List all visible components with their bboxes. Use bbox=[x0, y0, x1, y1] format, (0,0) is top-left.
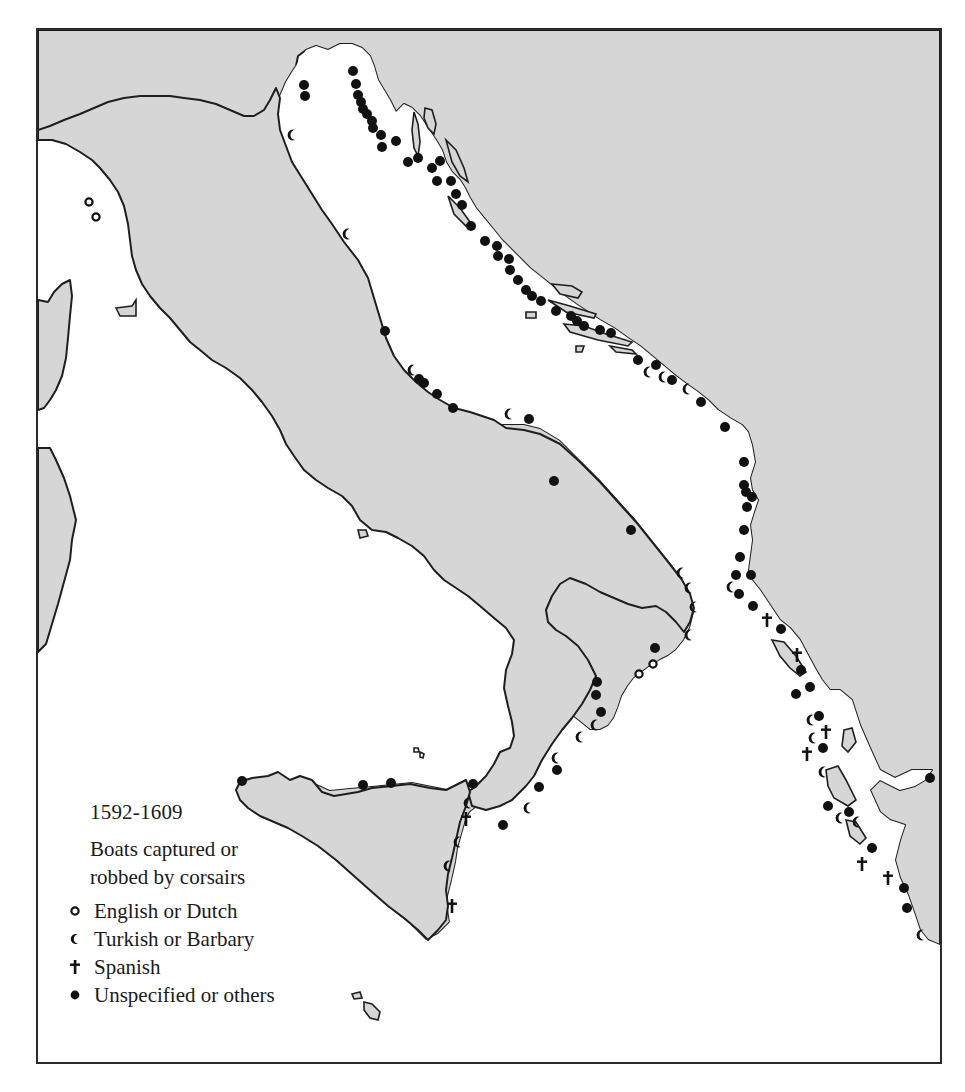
marker-unspecified bbox=[626, 525, 636, 535]
legend-item-turkish-barbary: Turkish or Barbary bbox=[60, 925, 320, 953]
marker-unspecified bbox=[748, 601, 758, 611]
marker-unspecified bbox=[348, 66, 358, 76]
legend-item-unspecified: Unspecified or others bbox=[60, 981, 320, 1009]
legend-label: Spanish bbox=[94, 955, 161, 980]
marker-unspecified bbox=[899, 883, 909, 893]
marker-unspecified bbox=[300, 91, 310, 101]
marker-unspecified bbox=[742, 502, 752, 512]
marker-unspecified bbox=[413, 153, 423, 163]
marker-english-dutch bbox=[635, 670, 642, 677]
marker-unspecified bbox=[551, 306, 561, 316]
island-aeolian-2 bbox=[420, 752, 424, 758]
marker-unspecified bbox=[505, 265, 515, 275]
marker-unspecified bbox=[667, 375, 677, 385]
open-circle-icon bbox=[60, 905, 90, 917]
marker-unspecified bbox=[534, 782, 544, 792]
cross-icon bbox=[60, 959, 90, 975]
legend: 1592-1609 Boats captured or robbed by co… bbox=[60, 800, 320, 1009]
marker-unspecified bbox=[448, 403, 458, 413]
marker-unspecified bbox=[735, 552, 745, 562]
marker-unspecified bbox=[386, 778, 396, 788]
marker-unspecified bbox=[791, 689, 801, 699]
marker-unspecified bbox=[457, 200, 467, 210]
marker-unspecified bbox=[549, 476, 559, 486]
marker-unspecified bbox=[720, 422, 730, 432]
legend-label: English or Dutch bbox=[94, 899, 237, 924]
legend-item-spanish: Spanish bbox=[60, 953, 320, 981]
marker-unspecified bbox=[493, 251, 503, 261]
marker-english-dutch bbox=[92, 213, 99, 220]
marker-english-dutch bbox=[649, 660, 656, 667]
marker-unspecified bbox=[446, 176, 456, 186]
marker-unspecified bbox=[805, 682, 815, 692]
marker-unspecified bbox=[776, 624, 786, 634]
marker-unspecified bbox=[299, 80, 309, 90]
marker-unspecified bbox=[818, 743, 828, 753]
marker-unspecified bbox=[391, 136, 401, 146]
marker-unspecified bbox=[731, 570, 741, 580]
island-gozo bbox=[352, 992, 362, 999]
crescent-icon bbox=[60, 932, 90, 946]
marker-unspecified bbox=[651, 360, 661, 370]
marker-unspecified bbox=[536, 296, 546, 306]
marker-unspecified bbox=[746, 570, 756, 580]
island-ischia bbox=[358, 530, 368, 538]
marker-unspecified bbox=[592, 677, 602, 687]
marker-unspecified bbox=[419, 378, 429, 388]
island-vis bbox=[526, 312, 536, 318]
marker-unspecified bbox=[498, 820, 508, 830]
marker-unspecified bbox=[747, 492, 757, 502]
marker-unspecified bbox=[823, 801, 833, 811]
island-aeolian-1 bbox=[414, 748, 419, 752]
marker-unspecified bbox=[237, 776, 247, 786]
marker-unspecified bbox=[451, 189, 461, 199]
legend-title: Boats captured or robbed by corsairs bbox=[90, 835, 320, 891]
island-lastovo bbox=[576, 346, 584, 352]
marker-unspecified bbox=[468, 779, 478, 789]
filled-circle-icon bbox=[60, 989, 90, 1001]
marker-unspecified bbox=[925, 773, 935, 783]
marker-english-dutch bbox=[85, 198, 92, 205]
marker-unspecified bbox=[527, 291, 537, 301]
marker-unspecified bbox=[432, 389, 442, 399]
marker-unspecified bbox=[796, 665, 806, 675]
marker-unspecified bbox=[368, 123, 378, 133]
marker-unspecified bbox=[591, 690, 601, 700]
marker-unspecified bbox=[513, 275, 523, 285]
marker-unspecified bbox=[579, 321, 589, 331]
marker-unspecified bbox=[524, 414, 534, 424]
marker-unspecified bbox=[480, 236, 490, 246]
marker-unspecified bbox=[376, 130, 386, 140]
marker-unspecified bbox=[427, 163, 437, 173]
marker-unspecified bbox=[492, 241, 502, 251]
marker-unspecified bbox=[380, 326, 390, 336]
marker-unspecified bbox=[358, 780, 368, 790]
marker-unspecified bbox=[552, 765, 562, 775]
marker-unspecified bbox=[596, 707, 606, 717]
marker-unspecified bbox=[696, 397, 706, 407]
marker-unspecified bbox=[650, 643, 660, 653]
marker-unspecified bbox=[403, 157, 413, 167]
marker-unspecified bbox=[351, 79, 361, 89]
legend-label: Turkish or Barbary bbox=[94, 927, 254, 952]
legend-label: Unspecified or others bbox=[94, 983, 275, 1008]
marker-unspecified bbox=[814, 711, 824, 721]
legend-title-line2: robbed by corsairs bbox=[90, 863, 320, 891]
marker-unspecified bbox=[595, 325, 605, 335]
marker-unspecified bbox=[844, 807, 854, 817]
marker-unspecified bbox=[739, 525, 749, 535]
marker-unspecified bbox=[902, 903, 912, 913]
marker-unspecified bbox=[739, 457, 749, 467]
marker-unspecified bbox=[432, 176, 442, 186]
marker-unspecified bbox=[633, 355, 643, 365]
marker-unspecified bbox=[435, 156, 445, 166]
legend-title-line1: Boats captured or bbox=[90, 835, 320, 863]
marker-unspecified bbox=[867, 843, 877, 853]
legend-period: 1592-1609 bbox=[90, 800, 320, 825]
marker-unspecified bbox=[377, 142, 387, 152]
marker-unspecified bbox=[466, 221, 476, 231]
legend-item-english-dutch: English or Dutch bbox=[60, 897, 320, 925]
marker-unspecified bbox=[734, 589, 744, 599]
marker-unspecified bbox=[504, 254, 514, 264]
marker-unspecified bbox=[606, 328, 616, 338]
